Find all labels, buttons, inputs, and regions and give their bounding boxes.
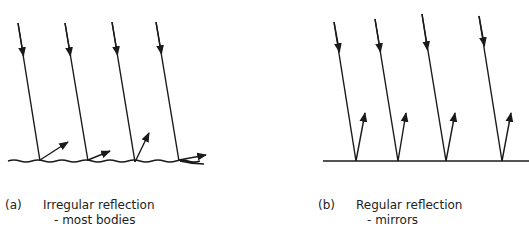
incident-ray-a-1: [18, 23, 40, 161]
reflected-ray-b-4: [502, 113, 511, 161]
incident-ray-b-3: [422, 14, 446, 161]
incident-ray-b-4: [479, 16, 502, 161]
rough-surface: [8, 160, 204, 164]
caption-a-subtitle: - most bodies: [5, 213, 155, 228]
incident-ray-b-1: [334, 22, 356, 161]
incident-ray-a-2: [65, 23, 88, 161]
panel-a-irregular-reflection: [8, 22, 206, 164]
reflected-ray-b-2: [398, 113, 406, 161]
incident-ray-b-2: [375, 19, 398, 161]
reflected-ray-a-2: [88, 151, 110, 160]
caption-a: (a)Irregular reflection - most bodies: [5, 198, 155, 228]
panel-b-regular-reflection: [323, 14, 529, 161]
caption-b: (b)Regular reflection - mirrors: [318, 198, 462, 228]
reflected-ray-b-3: [446, 113, 455, 161]
reflected-ray-a-4: [179, 155, 206, 160]
caption-a-title: Irregular reflection: [43, 198, 155, 212]
reflected-ray-a-1: [40, 142, 68, 160]
incident-ray-a-4: [156, 22, 179, 161]
caption-a-tag: (a): [5, 198, 43, 213]
reflected-ray-a-3: [135, 133, 149, 162]
caption-b-title: Regular reflection: [356, 198, 462, 212]
caption-b-subtitle: - mirrors: [318, 213, 462, 228]
caption-b-tag: (b): [318, 198, 356, 213]
reflected-ray-b-1: [356, 113, 365, 161]
incident-ray-a-3: [112, 22, 135, 162]
